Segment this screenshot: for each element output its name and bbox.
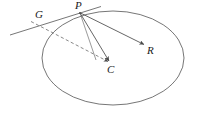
label-P: P bbox=[75, 0, 82, 11]
label-G: G bbox=[35, 9, 43, 20]
geometry-figure: G P C R bbox=[0, 0, 197, 125]
circle-outline bbox=[42, 11, 184, 105]
label-R: R bbox=[147, 45, 154, 56]
dashed-segment-G-to-C bbox=[31, 22, 108, 62]
point-marker-P bbox=[79, 12, 81, 14]
chord-from-P bbox=[80, 13, 96, 60]
figure-canvas bbox=[0, 0, 197, 125]
label-C: C bbox=[107, 64, 114, 75]
